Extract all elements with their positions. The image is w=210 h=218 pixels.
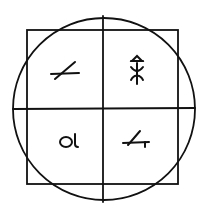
glyph-bottom-right-icon <box>123 131 149 147</box>
glyph-top-right-icon <box>131 56 143 84</box>
glyph-bottom-left-icon <box>60 134 78 147</box>
diagram-canvas <box>0 0 210 218</box>
quadrant-circle-diagram <box>0 0 210 218</box>
horizontal-divider <box>13 108 195 109</box>
glyph-top-left-icon <box>51 62 79 79</box>
